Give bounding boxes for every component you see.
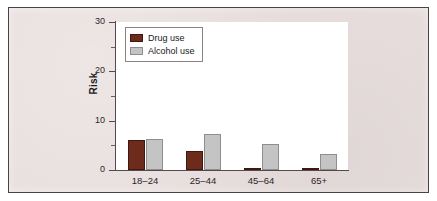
y-tick-major-30: [109, 22, 115, 23]
x-tick-label-25-44: 25–44: [174, 175, 232, 186]
bar-drug-use-18-24: [128, 140, 145, 170]
y-tick-major-20: [109, 71, 115, 72]
x-axis-line: [115, 170, 349, 171]
y-tick-minor-25: [111, 47, 115, 48]
x-tick-label-18-24: 18–24: [116, 175, 174, 186]
chart-legend: Drug use Alcohol use: [125, 27, 203, 62]
legend-label-alcohol-use: Alcohol use: [148, 47, 195, 56]
x-tick-label-45-64: 45–64: [232, 175, 290, 186]
legend-label-drug-use: Drug use: [148, 34, 185, 43]
y-tick-label-0: 0: [81, 165, 105, 174]
y-tick-major-10: [109, 121, 115, 122]
chart-figure: 0102030 Risk 18–2425–4445–6465+ Drug use…: [0, 0, 437, 201]
bar-alcohol-use-18-24: [146, 139, 163, 170]
bar-drug-use-25-44: [186, 151, 203, 170]
drug-use-swatch-icon: [130, 34, 143, 42]
y-tick-label-text-30: 30: [81, 17, 105, 26]
bar-alcohol-use-45-64: [262, 144, 279, 170]
y-axis-line: [115, 21, 116, 171]
y-tick-label-30: 30: [81, 17, 105, 26]
y-tick-label-text-10: 10: [81, 116, 105, 125]
alcohol-use-swatch-icon: [130, 47, 143, 55]
y-tick-label-text-0: 0: [81, 165, 105, 174]
y-tick-major-0: [109, 170, 115, 171]
legend-item-drug-use: Drug use: [130, 32, 195, 44]
legend-item-alcohol-use: Alcohol use: [130, 45, 195, 57]
y-tick-minor-5: [111, 145, 115, 146]
bar-alcohol-use-65+: [320, 154, 337, 170]
y-axis-title: Risk: [88, 62, 99, 106]
y-tick-label-10: 10: [81, 116, 105, 125]
bar-alcohol-use-25-44: [204, 134, 221, 170]
x-tick-label-65+: 65+: [290, 175, 348, 186]
y-tick-minor-15: [111, 96, 115, 97]
